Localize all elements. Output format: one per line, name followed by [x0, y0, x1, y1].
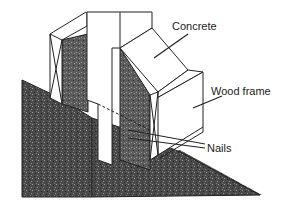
formwork-diagram: [0, 0, 287, 218]
left-wall-inner: [62, 34, 88, 112]
label-nails: Nails: [207, 143, 231, 154]
label-concrete: Concrete: [172, 21, 217, 32]
label-wood-frame: Wood frame: [211, 86, 271, 97]
